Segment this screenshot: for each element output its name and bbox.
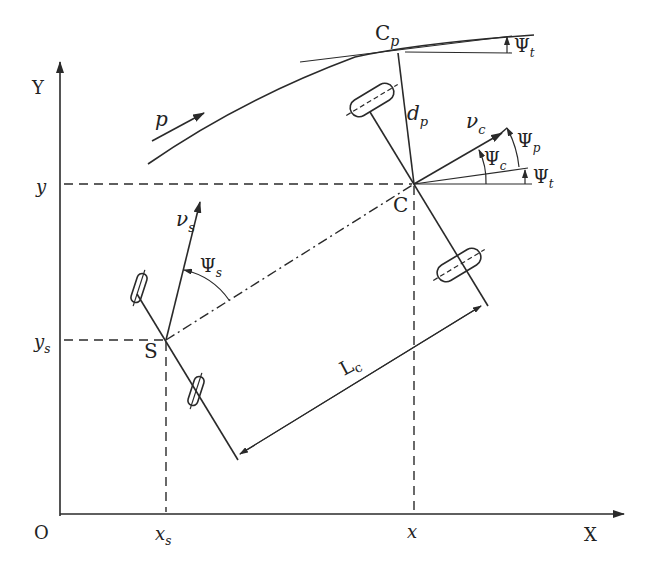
vehicle-kinematics-diagram: Y X O y ys xs x p Cp Ψt dp bbox=[0, 0, 649, 572]
x-axis-label: X bbox=[584, 524, 597, 545]
y-tick: y bbox=[35, 176, 47, 197]
front-velocity-ext bbox=[500, 128, 507, 134]
heading-t-line bbox=[414, 168, 528, 184]
c-label: C bbox=[393, 193, 408, 217]
rear-angles: νs Ψs bbox=[166, 202, 229, 340]
psi-s-label: Ψs bbox=[200, 255, 222, 280]
horizontal-ref-top bbox=[405, 52, 512, 53]
rear-axle: S bbox=[128, 268, 238, 460]
vs-label: νs bbox=[176, 207, 195, 235]
lc-dimension-line-back bbox=[240, 306, 481, 454]
dp-label: dp bbox=[407, 101, 429, 129]
rear-wheel-upper bbox=[128, 268, 149, 307]
xs-tick: xs bbox=[155, 523, 171, 548]
s-label: S bbox=[144, 339, 158, 363]
front-wheel-lower bbox=[429, 242, 490, 288]
lc-label: Lc bbox=[336, 351, 365, 382]
front-axle-line bbox=[370, 112, 488, 306]
path-label: p bbox=[155, 107, 168, 131]
front-angles: νc Ψc Ψp Ψt bbox=[414, 109, 554, 191]
ys-tick: ys bbox=[33, 331, 50, 356]
psi-t-top-label: Ψt bbox=[514, 35, 535, 60]
psi-p-label: Ψp bbox=[517, 130, 541, 155]
path: p Cp Ψt bbox=[148, 21, 535, 164]
psi-c-label: Ψc bbox=[484, 148, 507, 173]
projection-lines bbox=[64, 184, 414, 512]
tangent-line bbox=[300, 36, 512, 62]
rear-axle-line bbox=[137, 294, 238, 460]
psi-t-label: Ψt bbox=[533, 166, 554, 191]
tick-labels: y ys xs x bbox=[33, 176, 417, 548]
vc-label: νc bbox=[466, 109, 486, 137]
path-curve bbox=[148, 35, 534, 164]
x-tick: x bbox=[407, 521, 417, 542]
origin-label: O bbox=[34, 522, 49, 543]
cp-label: Cp bbox=[375, 21, 399, 49]
length-dimension: Lc bbox=[240, 306, 481, 454]
y-axis-label: Y bbox=[31, 77, 45, 98]
axes: Y X O bbox=[31, 62, 624, 545]
